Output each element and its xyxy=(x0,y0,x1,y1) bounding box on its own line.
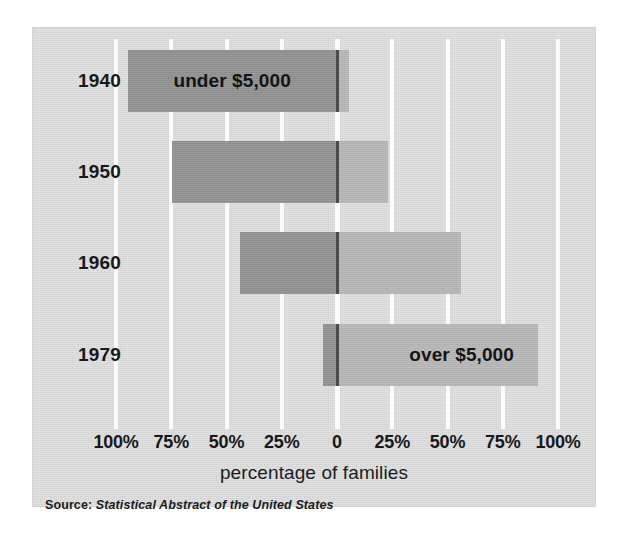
zero-rule-1940 xyxy=(336,50,339,112)
x-tick-pos75: 75% xyxy=(485,432,520,453)
bar-segment-under-1950[interactable] xyxy=(172,141,337,203)
bar-segment-under-1960[interactable] xyxy=(240,232,337,294)
bar-label-1979: over $5,000 xyxy=(409,344,514,366)
year-label-1940: 1940 xyxy=(45,70,121,92)
bar-row-1940: 1940under $5,000 xyxy=(33,50,595,112)
x-tick-neg50: 50% xyxy=(209,432,244,453)
bar-row-1960: 1960 xyxy=(33,232,595,294)
bar-segment-under-1979[interactable] xyxy=(323,324,337,386)
year-label-1950: 1950 xyxy=(45,161,121,183)
x-tick-pos25: 25% xyxy=(375,432,410,453)
bar-segment-over-1950[interactable] xyxy=(337,141,388,203)
bar-segment-over-1960[interactable] xyxy=(337,232,461,294)
source-title: Statistical Abstract of the United State… xyxy=(96,498,334,512)
x-tick-pos50: 50% xyxy=(430,432,465,453)
x-tick-pos100: 100% xyxy=(535,432,580,453)
zero-rule-1950 xyxy=(336,141,339,203)
source-prefix: Source: xyxy=(45,498,92,512)
chart-panel: 1940under $5,000195019601979over $5,000 … xyxy=(33,28,595,506)
year-label-1979: 1979 xyxy=(45,344,121,366)
x-tick-neg25: 25% xyxy=(264,432,299,453)
x-tick-neg100: 100% xyxy=(93,432,138,453)
bar-row-1979: 1979over $5,000 xyxy=(33,324,595,386)
x-tick-neg75: 75% xyxy=(154,432,189,453)
x-tick-pos0: 0 xyxy=(332,432,342,453)
bar-1979[interactable]: over $5,000 xyxy=(323,324,538,386)
source-note: Source: Statistical Abstract of the Unit… xyxy=(45,498,334,512)
bar-1950[interactable] xyxy=(172,141,387,203)
chart-figure: 1940under $5,000195019601979over $5,000 … xyxy=(0,0,618,535)
zero-rule-1960 xyxy=(336,232,339,294)
bar-row-1950: 1950 xyxy=(33,141,595,203)
bar-1940[interactable]: under $5,000 xyxy=(128,50,349,112)
x-axis-title: percentage of families xyxy=(33,462,595,484)
x-axis-tick-labels: 100%75%50%25%025%50%75%100% xyxy=(33,432,595,458)
year-label-1960: 1960 xyxy=(45,252,121,274)
bar-label-1940: under $5,000 xyxy=(173,70,290,92)
zero-rule-1979 xyxy=(336,324,339,386)
bar-1960[interactable] xyxy=(240,232,461,294)
